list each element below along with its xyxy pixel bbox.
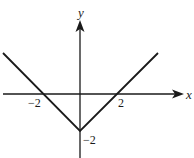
x-tick-label-2: 2	[118, 96, 124, 110]
y-axis-label: y	[76, 5, 84, 20]
graph: y x −2 2 −2	[0, 0, 194, 158]
x-axis-label: x	[185, 87, 192, 102]
y-tick-label-neg2: −2	[83, 133, 96, 147]
x-tick-label-neg2: −2	[28, 96, 41, 110]
